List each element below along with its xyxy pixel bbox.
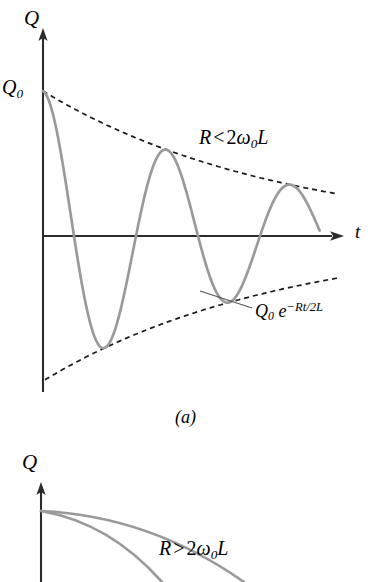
- panel-a-y-axis-label: Q: [24, 8, 39, 29]
- figure-canvas: [0, 0, 374, 582]
- envelope-amplitude: Q: [255, 301, 268, 321]
- condition-inductance: L: [257, 126, 268, 148]
- panel-b-fast-decay-curve: [41, 511, 162, 582]
- panel-a-t-axis-label: t: [355, 222, 360, 241]
- panel-a-condition-label: R<2ω0L: [199, 127, 268, 150]
- condition-b-factor: 2: [187, 537, 197, 559]
- panel-a-group: [38, 28, 344, 392]
- panel-b-condition-label: R>2ω0L: [159, 538, 228, 561]
- panel-b-group: [36, 482, 244, 582]
- panel-a-caption: (a): [175, 408, 196, 426]
- initial-charge-subscript: 0: [16, 86, 23, 101]
- condition-omega: ω: [237, 126, 251, 148]
- panel-a-envelope-equation-label: Q0 e−Rt/2L: [255, 301, 323, 323]
- panel-a-lower-envelope: [45, 278, 337, 380]
- panel-a-t-axis-arrowhead: [330, 231, 344, 241]
- condition-b-lhs: R: [159, 537, 171, 559]
- condition-lhs: R: [199, 126, 211, 148]
- panel-a-initial-charge-label: Q0: [2, 77, 23, 100]
- panel-a-envelope-leader-line: [200, 291, 252, 308]
- envelope-exponent: −Rt/2L: [286, 300, 323, 314]
- figure-root: Q Q0 t R<2ω0L Q0 e−Rt/2L (a) Q R>2ω0L: [0, 0, 374, 582]
- initial-charge-symbol: Q: [2, 76, 16, 98]
- condition-b-inductance: L: [217, 537, 228, 559]
- condition-factor: 2: [227, 126, 237, 148]
- panel-a-upper-envelope: [43, 91, 337, 194]
- panel-b-y-axis-label: Q: [22, 452, 37, 473]
- condition-b-omega: ω: [197, 537, 211, 559]
- condition-b-operator: >: [171, 537, 186, 559]
- condition-operator: <: [211, 126, 226, 148]
